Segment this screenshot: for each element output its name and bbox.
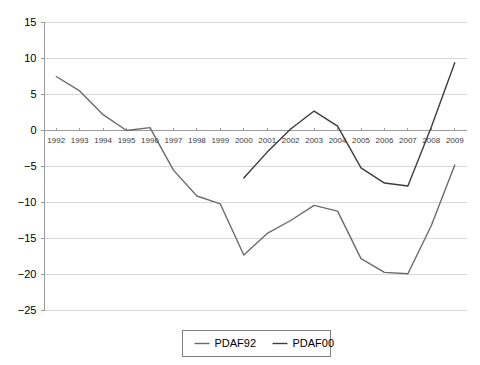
x-axis-tick-label: 1998 xyxy=(188,136,206,145)
x-axis-tick-label: 2002 xyxy=(282,136,300,145)
x-axis-tick-label: 2003 xyxy=(305,136,323,145)
line-chart: 151050−5−10−15−20−2519921993199419951996… xyxy=(0,0,480,365)
series-line-pdaf00 xyxy=(244,63,455,186)
legend: PDAF92PDAF00 xyxy=(183,331,335,357)
x-axis-tick-label: 2005 xyxy=(352,136,370,145)
y-axis-tick-label: −20 xyxy=(18,268,37,280)
chart-container: 151050−5−10−15−20−2519921993199419951996… xyxy=(0,0,480,365)
x-axis-tick-label: 2006 xyxy=(376,136,394,145)
x-axis-tick-label: 1994 xyxy=(94,136,112,145)
legend-label-pdaf00: PDAF00 xyxy=(293,337,335,349)
x-axis-tick-label: 2000 xyxy=(235,136,253,145)
x-axis-tick-label: 2007 xyxy=(399,136,417,145)
x-axis-tick-label: 1999 xyxy=(211,136,229,145)
y-axis-tick-label: −25 xyxy=(18,304,37,316)
y-axis-tick-label: 15 xyxy=(24,16,36,28)
y-axis-tick-label: 0 xyxy=(30,124,36,136)
x-axis-tick-label: 2001 xyxy=(258,136,276,145)
y-axis-tick-label: 10 xyxy=(24,52,36,64)
x-axis-tick-label: 1993 xyxy=(71,136,89,145)
x-axis-tick-label: 1997 xyxy=(165,136,183,145)
x-axis-tick-label: 2009 xyxy=(446,136,464,145)
x-axis-tick-label: 1992 xyxy=(47,136,65,145)
x-axis-tick-label: 1995 xyxy=(118,136,136,145)
legend-label-pdaf92: PDAF92 xyxy=(215,337,257,349)
y-axis-tick-label: −10 xyxy=(18,196,37,208)
y-axis-tick-label: 5 xyxy=(30,88,36,100)
y-axis-tick-label: −15 xyxy=(18,232,37,244)
series-line-pdaf92 xyxy=(56,77,455,274)
y-axis-tick-label: −5 xyxy=(24,160,37,172)
